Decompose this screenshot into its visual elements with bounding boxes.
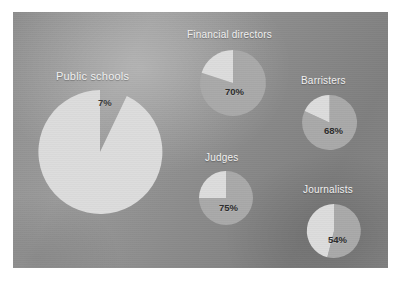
pie-chart-figure: Public schools 7% Financial directors 70… xyxy=(0,0,400,285)
slice-judges-remainder xyxy=(199,171,226,198)
label-public-schools: Public schools xyxy=(56,70,129,82)
pie-barristers-svg xyxy=(301,94,358,151)
pie-journalists-svg xyxy=(306,203,362,259)
label-financial-directors: Financial directors xyxy=(187,29,272,40)
label-barristers: Barristers xyxy=(301,75,346,86)
pie-judges-svg xyxy=(198,170,254,226)
value-judges: 75% xyxy=(219,202,238,213)
pie-judges xyxy=(198,170,254,226)
pie-journalists xyxy=(306,203,362,259)
label-judges: Judges xyxy=(205,152,238,163)
value-public-schools: 7% xyxy=(98,97,112,108)
value-barristers: 68% xyxy=(324,125,343,136)
chart-panel: Public schools 7% Financial directors 70… xyxy=(13,12,388,268)
value-financial-directors: 70% xyxy=(225,86,244,97)
pie-barristers xyxy=(301,94,358,151)
label-journalists: Journalists xyxy=(303,184,353,195)
value-journalists: 54% xyxy=(328,234,347,245)
slice-public-schools-remainder xyxy=(38,90,162,214)
pie-financial-directors xyxy=(199,49,267,117)
pie-financial-directors-svg xyxy=(199,49,267,117)
